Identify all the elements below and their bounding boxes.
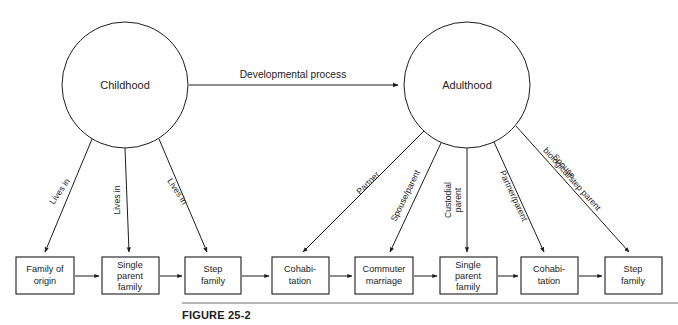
cohabitation-1-line-1: Cohabi- (284, 264, 316, 274)
edge-childhood-to-single-parent: Lives in (112, 148, 129, 252)
single-parent-2-line-2: parent (455, 271, 481, 281)
node-adulthood[interactable]: Adulthood (404, 22, 530, 148)
box-single-parent-1[interactable]: Single parent family (102, 257, 159, 294)
node-childhood[interactable]: Childhood (62, 22, 188, 148)
figure-caption: FIGURE 25-2 (182, 309, 251, 321)
adulthood-label: Adulthood (442, 79, 492, 91)
box-single-parent-2[interactable]: Single parent family (440, 257, 497, 294)
adulthood-commuter-marriage-arrow (390, 143, 441, 252)
single-parent-1-line-2: parent (117, 271, 143, 281)
developmental-process-diagram: Childhood Adulthood Developmental proces… (0, 0, 678, 325)
adulthood-commuter-marriage-label: Spouse/parent (389, 168, 423, 223)
commuter-marriage-line-2: marriage (366, 276, 402, 286)
edge-childhood-to-step-family: Lives in (159, 139, 207, 252)
childhood-label: Childhood (100, 79, 150, 91)
box-step-family-1[interactable]: Step family (185, 257, 241, 294)
adulthood-single-parent-2-label-line1: Custodial (443, 182, 453, 218)
childhood-single-parent-label: Lives in (112, 185, 122, 214)
box-step-family-2[interactable]: Step family (605, 257, 662, 294)
single-parent-2-line-1: Single (455, 260, 481, 270)
single-parent-1-line-1: Single (117, 260, 143, 270)
figure-container: Childhood Adulthood Developmental proces… (0, 0, 678, 325)
cohabitation-2-line-2: tation (538, 276, 560, 286)
box-cohabitation-1[interactable]: Cohabi- tation (272, 257, 329, 294)
step-family-1-line-1: Step (204, 264, 223, 274)
childhood-step-family-label: Lives in (165, 176, 189, 206)
edge-adulthood-to-single-parent-2: Custodial parent (443, 148, 467, 252)
edge-adulthood-to-commuter-marriage: Spouse/parent (389, 143, 441, 252)
box-cohabitation-2[interactable]: Cohabi- tation (521, 257, 578, 294)
childhood-single-parent-arrow (125, 148, 129, 252)
step-family-2-line-1: Step (624, 264, 643, 274)
childhood-family-of-origin-label: Lives in (47, 176, 72, 206)
edge-developmental-process: Developmental process (189, 69, 398, 85)
cohabitation-2-line-1: Cohabi- (533, 264, 565, 274)
commuter-marriage-line-1: Commuter (363, 264, 406, 274)
adulthood-step-family-2-label-line2: biological/step parent (541, 145, 603, 213)
edge-childhood-to-family-of-origin: Lives in (45, 139, 92, 252)
adulthood-step-family-2-arrow (516, 126, 629, 252)
box-commuter-marriage[interactable]: Commuter marriage (355, 257, 413, 294)
developmental-process-label: Developmental process (240, 69, 346, 80)
edge-adulthood-to-cohabitation-2: Partner/parent (494, 142, 544, 252)
adulthood-single-parent-2-label-line2: parent (453, 187, 463, 212)
step-family-2-line-2: family (621, 276, 645, 286)
single-parent-2-line-3: family (456, 282, 480, 292)
step-family-1-line-2: family (201, 276, 225, 286)
adulthood-cohabitation-2-label: Partner/parent (498, 169, 531, 224)
family-of-origin-line-2: origin (34, 276, 56, 286)
family-of-origin-line-1: Family of (26, 264, 64, 274)
box-family-of-origin[interactable]: Family of origin (16, 257, 74, 294)
edge-adulthood-to-step-family-2: Spouse biological/step parent (516, 126, 629, 252)
cohabitation-1-line-2: tation (289, 276, 311, 286)
adulthood-cohabitation-1-label: Partner (354, 169, 381, 196)
single-parent-1-line-3: family (118, 282, 142, 292)
